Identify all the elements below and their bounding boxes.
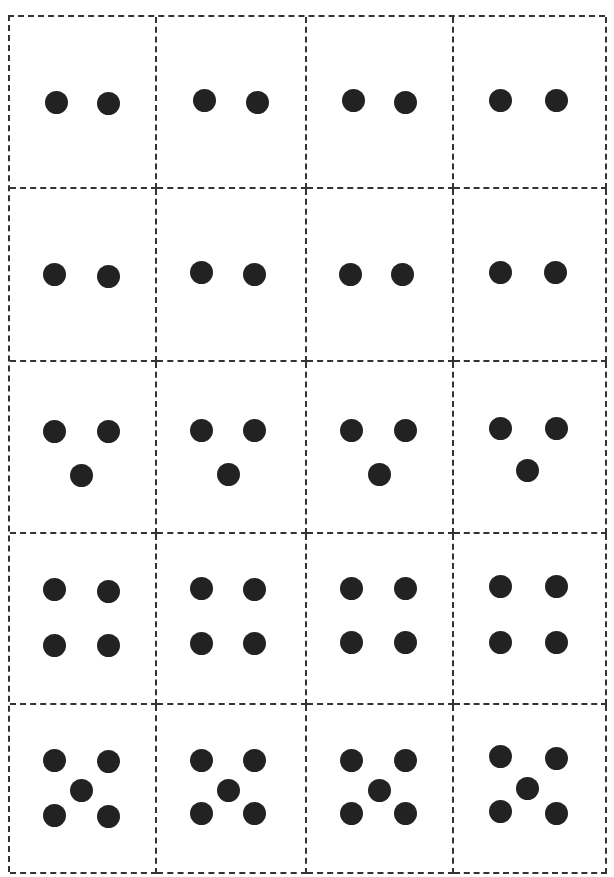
dot-icon <box>43 749 66 772</box>
dot-icon <box>97 634 120 657</box>
dot-icon <box>489 800 512 823</box>
dot-icon <box>545 575 568 598</box>
dot-icon <box>217 463 240 486</box>
dot-icon <box>97 580 120 603</box>
dot-icon <box>340 749 363 772</box>
dot-icon <box>545 802 568 825</box>
dot-icon <box>489 575 512 598</box>
dot-card-2 <box>10 17 157 189</box>
dot-icon <box>342 89 365 112</box>
dot-icon <box>394 749 417 772</box>
dot-icon <box>394 577 417 600</box>
dot-icon <box>368 779 391 802</box>
dot-card-2 <box>454 189 607 362</box>
dot-icon <box>97 420 120 443</box>
dot-icon <box>97 750 120 773</box>
dot-icon <box>243 263 266 286</box>
dot-icon <box>489 745 512 768</box>
dot-icon <box>545 631 568 654</box>
dot-icon <box>43 634 66 657</box>
dot-icon <box>391 263 414 286</box>
dot-icon <box>217 779 240 802</box>
dot-icon <box>339 263 362 286</box>
dot-icon <box>489 417 512 440</box>
dot-card-3 <box>454 362 607 534</box>
dot-icon <box>193 89 216 112</box>
dot-icon <box>516 459 539 482</box>
dot-icon <box>545 747 568 770</box>
dot-card-3 <box>157 362 307 534</box>
dot-icon <box>97 92 120 115</box>
dot-card-5 <box>157 705 307 874</box>
dot-icon <box>97 265 120 288</box>
dot-icon <box>489 89 512 112</box>
dot-icon <box>394 91 417 114</box>
dot-icon <box>97 805 120 828</box>
dot-icon <box>190 419 213 442</box>
dot-icon <box>190 802 213 825</box>
dot-card-2 <box>10 189 157 362</box>
dot-icon <box>190 749 213 772</box>
dot-icon <box>43 420 66 443</box>
dot-card-2 <box>307 189 454 362</box>
dot-icon <box>545 417 568 440</box>
dot-card-2 <box>157 17 307 189</box>
dot-icon <box>544 261 567 284</box>
dot-icon <box>394 631 417 654</box>
dot-icon <box>340 802 363 825</box>
dot-card-4 <box>10 534 157 705</box>
dot-icon <box>70 464 93 487</box>
dot-icon <box>545 89 568 112</box>
dot-icon <box>516 777 539 800</box>
dot-card-4 <box>454 534 607 705</box>
dot-icon <box>190 261 213 284</box>
dot-card-5 <box>307 705 454 874</box>
dot-card-2 <box>307 17 454 189</box>
dot-card-worksheet <box>8 15 605 872</box>
dot-icon <box>243 802 266 825</box>
dot-card-3 <box>10 362 157 534</box>
dot-icon <box>340 577 363 600</box>
dot-icon <box>70 779 93 802</box>
dot-card-2 <box>454 17 607 189</box>
dot-icon <box>489 261 512 284</box>
dot-card-4 <box>307 534 454 705</box>
dot-card-5 <box>454 705 607 874</box>
dot-icon <box>45 91 68 114</box>
dot-card-2 <box>157 189 307 362</box>
dot-card-3 <box>307 362 454 534</box>
dot-icon <box>190 577 213 600</box>
dot-card-4 <box>157 534 307 705</box>
dot-icon <box>246 91 269 114</box>
dot-icon <box>243 749 266 772</box>
dot-icon <box>43 578 66 601</box>
dot-card-5 <box>10 705 157 874</box>
dot-icon <box>340 419 363 442</box>
dot-icon <box>243 578 266 601</box>
dot-icon <box>243 632 266 655</box>
dot-icon <box>394 419 417 442</box>
dot-icon <box>489 631 512 654</box>
dot-icon <box>43 263 66 286</box>
dot-icon <box>394 802 417 825</box>
dot-icon <box>243 419 266 442</box>
dot-icon <box>340 631 363 654</box>
dot-icon <box>368 463 391 486</box>
dot-icon <box>43 804 66 827</box>
dot-icon <box>190 632 213 655</box>
